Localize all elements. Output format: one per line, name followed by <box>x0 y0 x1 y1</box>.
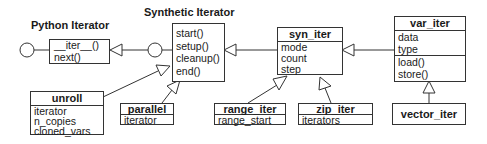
python-iterator-title: Python Iterator <box>31 19 109 31</box>
python-iterator-box: __iter__() next() <box>49 39 110 64</box>
attribute: step <box>281 64 339 75</box>
method: end() <box>176 65 221 78</box>
attribute: iterators <box>302 115 369 125</box>
attribute: cloned_vars <box>34 126 100 136</box>
arrowhead-unroll-icon <box>156 65 170 76</box>
syn-iter-class: syn_iter mode count step <box>277 27 343 75</box>
class-name: unroll <box>31 92 103 106</box>
method: __iter__() <box>54 40 106 52</box>
attribute: type <box>398 43 462 55</box>
range-iter-class: range_iter range_start <box>214 103 286 125</box>
synthetic-iterator-box: start() setup() cleanup() end() <box>172 23 225 82</box>
attribute: iterator <box>124 115 170 125</box>
vector-iter-class: vector_iter <box>392 103 466 125</box>
arrowhead-range-iter-icon <box>273 76 287 90</box>
attribute: range_start <box>218 115 282 125</box>
attribute: data <box>398 31 462 43</box>
var-iter-class: var_iter data type load() store() <box>394 16 466 82</box>
method: store() <box>398 68 462 80</box>
synthetic-iterator-title: Synthetic Iterator <box>144 6 234 18</box>
arrowhead-to-syn-iter-icon <box>342 44 354 56</box>
parallel-class: parallel iterator <box>120 103 174 125</box>
class-name: syn_iter <box>278 28 342 42</box>
class-name: vector_iter <box>393 104 465 124</box>
class-name: var_iter <box>395 17 465 31</box>
method: setup() <box>176 40 221 53</box>
arrowhead-parallel-icon <box>167 80 180 94</box>
method: load() <box>398 56 462 68</box>
python-interface-lollipop-icon <box>20 43 34 57</box>
method: cleanup() <box>176 52 221 65</box>
arrowhead-zip-iter-icon <box>319 77 331 90</box>
arrowhead-to-synthetic-iterator-icon <box>224 44 236 56</box>
method: next() <box>54 52 106 64</box>
zip-iter-class: zip_iter iterators <box>298 103 373 125</box>
synthetic-interface-lollipop-icon <box>148 43 162 57</box>
arrowhead-to-python-iterator-icon <box>110 44 122 56</box>
unroll-class: unroll iterator n_copies cloned_vars <box>30 91 104 135</box>
arrowhead-to-var-iter-icon <box>423 81 435 93</box>
method: start() <box>176 27 221 40</box>
